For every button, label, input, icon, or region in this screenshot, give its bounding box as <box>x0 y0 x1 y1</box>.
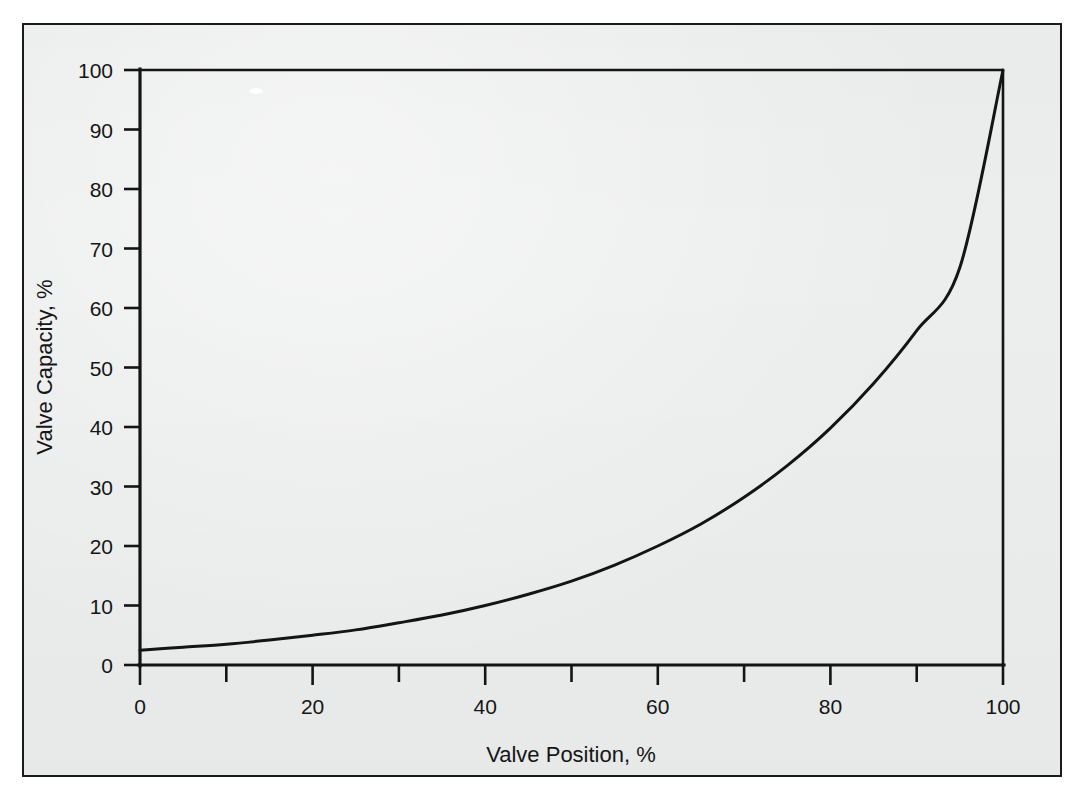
x-tick-label-80: 80 <box>819 695 842 718</box>
y-axis-title: Valve Capacity, % <box>32 279 57 454</box>
y-axis-tick-labels: 0 10 20 30 40 50 60 70 80 90 100 <box>78 59 113 677</box>
y-tick-label-50: 50 <box>90 357 113 380</box>
y-tick-label-10: 10 <box>90 595 113 618</box>
y-tick-label-100: 100 <box>78 59 113 82</box>
valve-characteristic-chart: 0 10 20 30 40 50 60 70 80 90 100 <box>0 0 1083 800</box>
x-tick-label-60: 60 <box>646 695 669 718</box>
y-tick-label-40: 40 <box>90 416 113 439</box>
x-tick-label-100: 100 <box>985 695 1020 718</box>
y-tick-label-0: 0 <box>101 654 113 677</box>
y-tick-label-90: 90 <box>90 119 113 142</box>
x-tick-label-20: 20 <box>301 695 324 718</box>
y-axis-ticks <box>124 70 140 665</box>
valve-capacity-curve <box>140 70 1003 650</box>
y-tick-label-60: 60 <box>90 297 113 320</box>
x-tick-label-40: 40 <box>474 695 497 718</box>
y-tick-label-70: 70 <box>90 238 113 261</box>
x-axis-ticks <box>140 665 1003 685</box>
y-tick-label-30: 30 <box>90 476 113 499</box>
y-tick-label-20: 20 <box>90 535 113 558</box>
plot-axes <box>139 69 1004 666</box>
y-tick-label-80: 80 <box>90 178 113 201</box>
figure-page: 0 10 20 30 40 50 60 70 80 90 100 <box>0 0 1083 800</box>
x-tick-label-0: 0 <box>134 695 146 718</box>
x-axis-title: Valve Position, % <box>486 742 656 767</box>
x-axis-tick-labels: 0 20 40 60 80 100 <box>134 695 1020 718</box>
